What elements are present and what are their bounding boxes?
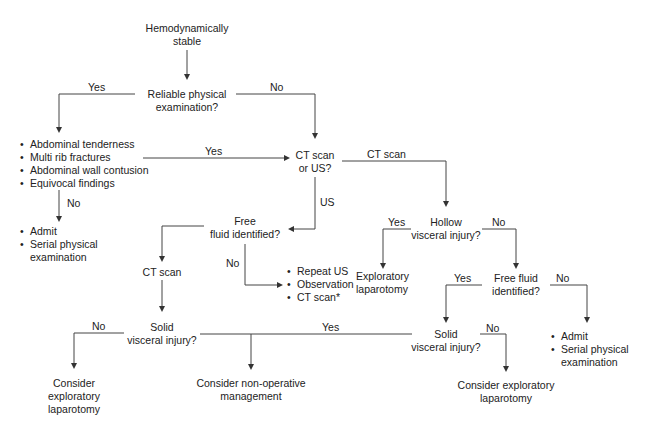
label-hollow-no: No bbox=[492, 216, 505, 229]
list-item: Admit bbox=[20, 225, 125, 238]
node-free-fluid-us: Free fluid identified? bbox=[210, 215, 280, 241]
list-item: Multi rib fractures bbox=[20, 151, 148, 164]
label-free-fluid-no: No bbox=[226, 257, 239, 270]
list-item: Serial physical examination bbox=[20, 238, 125, 264]
node-text: Consider exploratory laparotomy bbox=[48, 377, 100, 416]
node-text: CT scan bbox=[143, 266, 182, 279]
node-exploratory-laparotomy: Exploratory laparotomy bbox=[356, 270, 409, 296]
admit-right-list: Admit Serial physical examination bbox=[551, 330, 646, 369]
findings-list: Abdominal tenderness Multi rib fractures… bbox=[20, 138, 148, 190]
list-item: Equivocal findings bbox=[20, 177, 148, 190]
list-item: Admit bbox=[551, 330, 646, 343]
node-text: Consider exploratory laparotomy bbox=[458, 379, 555, 405]
node-ct-or-us: CT scan or US? bbox=[296, 149, 335, 175]
list-item: CT scan* bbox=[287, 291, 354, 304]
label-ffct-no: No bbox=[556, 272, 569, 285]
node-text: Solid visceral injury? bbox=[411, 328, 480, 354]
node-text: Hemodynamically stable bbox=[146, 22, 229, 48]
label-ct-branch: CT scan bbox=[367, 148, 406, 161]
node-consider-nonoperative: Consider non-operative management bbox=[196, 377, 305, 403]
node-hollow-visceral: Hollow visceral injury? bbox=[411, 216, 480, 242]
label-solid-right-no: No bbox=[486, 322, 499, 335]
node-hemodynamically-stable: Hemodynamically stable bbox=[146, 22, 229, 48]
label-reliable-yes: Yes bbox=[88, 81, 105, 94]
list-item: Abdominal wall contusion bbox=[20, 164, 148, 177]
label-solid-left-yes: Yes bbox=[322, 321, 339, 334]
label-hollow-yes: Yes bbox=[388, 216, 405, 229]
node-text: Hollow visceral injury? bbox=[411, 216, 480, 242]
label-reliable-no: No bbox=[270, 81, 283, 94]
admit-left-list: Admit Serial physical examination bbox=[20, 225, 125, 264]
list-item: Observation bbox=[287, 278, 354, 291]
node-text: Consider non-operative management bbox=[196, 377, 305, 403]
trauma-flowchart: Hemodynamically stable Reliable physical… bbox=[0, 0, 646, 426]
node-text: Exploratory laparotomy bbox=[356, 270, 409, 296]
node-solid-left: Solid visceral injury? bbox=[127, 321, 196, 347]
label-findings-yes: Yes bbox=[205, 145, 222, 158]
node-consider-exploratory-right: Consider exploratory laparotomy bbox=[458, 379, 555, 405]
repeat-list: Repeat US Observation CT scan* bbox=[287, 265, 354, 304]
connector-lines bbox=[0, 0, 646, 426]
node-text: Reliable physical examination? bbox=[148, 88, 227, 114]
node-text: CT scan or US? bbox=[296, 149, 335, 175]
node-ct-scan: CT scan bbox=[143, 266, 182, 279]
list-item: Serial physical examination bbox=[551, 343, 646, 369]
list-item: Abdominal tenderness bbox=[20, 138, 148, 151]
label-findings-no: No bbox=[67, 197, 80, 210]
node-free-fluid-ct: Free fluid identified? bbox=[492, 272, 540, 298]
node-text: Free fluid identified? bbox=[492, 272, 540, 298]
node-text: Free fluid identified? bbox=[210, 215, 280, 241]
node-solid-right: Solid visceral injury? bbox=[411, 328, 480, 354]
label-us-branch: US bbox=[320, 196, 335, 209]
list-item: Repeat US bbox=[287, 265, 354, 278]
label-ffct-yes: Yes bbox=[454, 272, 471, 285]
node-reliable-exam: Reliable physical examination? bbox=[148, 88, 227, 114]
node-consider-exploratory-left: Consider exploratory laparotomy bbox=[48, 377, 100, 416]
label-solid-left-no: No bbox=[92, 320, 105, 333]
node-text: Solid visceral injury? bbox=[127, 321, 196, 347]
